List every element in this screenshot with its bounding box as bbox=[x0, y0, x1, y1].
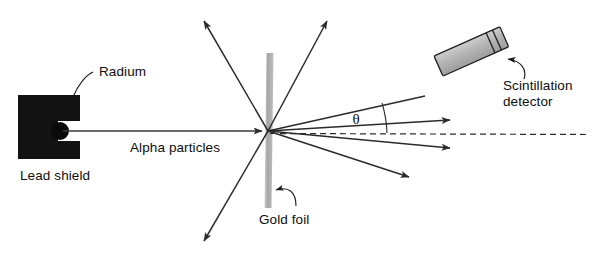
rutherford-scattering-diagram: Radium Lead shield Alpha particles Gold … bbox=[0, 0, 610, 259]
gold-foil-label: Gold foil bbox=[259, 212, 309, 227]
theta-angle-label: θ bbox=[352, 111, 359, 127]
diagram-canvas: Radium Lead shield Alpha particles Gold … bbox=[0, 0, 610, 259]
lead-shield-label: Lead shield bbox=[20, 168, 90, 183]
radium-label: Radium bbox=[99, 64, 146, 79]
scattered-ray-back-up-right bbox=[268, 21, 327, 131]
scattered-ray-back-up-left bbox=[204, 21, 268, 131]
detector-body bbox=[434, 27, 509, 76]
scintillation-detector-label-line1: Scintillation bbox=[503, 78, 573, 93]
gold-foil-leader-line bbox=[276, 189, 296, 206]
scintillation-detector-group bbox=[434, 27, 509, 76]
lead-shield-block bbox=[18, 95, 80, 159]
theta-angle-arc bbox=[382, 103, 387, 133]
detector-leader-line bbox=[508, 59, 525, 79]
undeflected-beam-axis bbox=[270, 134, 588, 135]
alpha-particles-label: Alpha particles bbox=[130, 140, 220, 155]
lead-shield-group bbox=[18, 95, 80, 159]
scintillation-detector-label-line2: detector bbox=[503, 94, 553, 109]
radium-leader-line bbox=[73, 72, 93, 97]
